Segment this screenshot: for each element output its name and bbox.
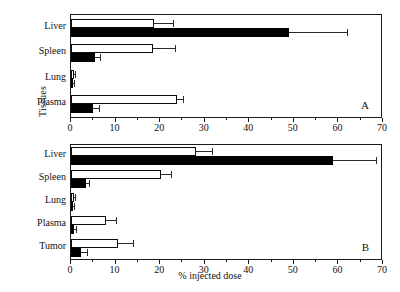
bar-a-plasma-filled [71, 104, 93, 113]
x-axis-title: % injected dose [120, 270, 300, 281]
bar-a-liver-filled [71, 28, 289, 37]
x-minor-tick-b-65 [360, 260, 361, 262]
errorbar-cap-a-plasma-open [183, 96, 184, 103]
errorbar-cap-a-liver-open [173, 20, 174, 27]
errorbar-cap-a-spleen-filled [100, 54, 101, 61]
bar-b-liver-open [71, 147, 196, 156]
x-minor-tick-a-45 [271, 118, 272, 120]
bar-a-spleen-filled [71, 53, 95, 62]
category-label-b-spleen: Spleen [4, 171, 66, 182]
errorbar-cap-a-lung-filled [74, 80, 75, 87]
panel-a-plot-area [71, 15, 381, 117]
bar-b-liver-filled [71, 156, 333, 165]
errorbar-cap-b-lung-filled [74, 203, 75, 210]
bar-b-tumor-open [71, 239, 118, 248]
x-minor-tick-a-35 [226, 118, 227, 120]
x-minor-tick-b-45 [271, 260, 272, 262]
errorbar-cap-b-spleen-open [171, 171, 172, 178]
panel-a-letter: A [361, 99, 369, 111]
errorbar-cap-a-lung-open [75, 71, 76, 78]
panel-b-plot-area [71, 145, 381, 259]
category-label-a-lung: Lung [4, 71, 66, 82]
errorbar-cap-b-liver-open [212, 148, 213, 155]
bar-b-plasma-open [71, 216, 106, 225]
x-tick-label-a-10: 10 [101, 122, 129, 133]
bar-b-spleen-open [71, 170, 161, 179]
errorbar-b-tumor-open [118, 243, 134, 244]
errorbar-a-liver-open [154, 23, 173, 24]
errorbar-cap-b-plasma-open [116, 217, 117, 224]
bar-a-spleen-open [71, 44, 153, 53]
category-label-b-liver: Liver [4, 148, 66, 159]
x-minor-tick-a-65 [360, 118, 361, 120]
x-tick-label-b-70: 70 [368, 264, 396, 275]
x-minor-tick-b-35 [226, 260, 227, 262]
x-tick-label-a-40: 40 [234, 122, 262, 133]
x-tick-label-a-20: 20 [145, 122, 173, 133]
x-minor-tick-a-5 [92, 118, 93, 120]
x-tick-label-b-0: 0 [56, 264, 84, 275]
errorbar-cap-a-spleen-open [175, 45, 176, 52]
x-tick-label-a-70: 70 [368, 122, 396, 133]
bar-b-tumor-filled [71, 248, 81, 257]
category-label-b-plasma: Plasma [4, 217, 66, 228]
x-tick-label-a-30: 30 [190, 122, 218, 133]
category-label-a-liver: Liver [4, 20, 66, 31]
x-minor-tick-b-5 [92, 260, 93, 262]
errorbar-a-liver-filled [289, 32, 347, 33]
panel-b: B [70, 144, 382, 260]
errorbar-cap-a-plasma-filled [99, 105, 100, 112]
x-minor-tick-a-15 [137, 118, 138, 120]
bar-b-spleen-filled [71, 179, 86, 188]
errorbar-cap-b-liver-filled [376, 157, 377, 164]
errorbar-cap-b-tumor-filled [87, 249, 88, 256]
figure-canvas: Tissues A B LiverSpleenLungPlasma LiverS… [0, 0, 400, 292]
errorbar-cap-b-tumor-open [133, 240, 134, 247]
x-tick-label-a-0: 0 [56, 122, 84, 133]
x-minor-tick-a-55 [315, 118, 316, 120]
panel-b-letter: B [362, 241, 369, 253]
errorbar-a-spleen-open [153, 48, 175, 49]
category-label-b-tumor: Tumor [4, 240, 66, 251]
errorbar-cap-b-plasma-filled [76, 226, 77, 233]
x-minor-tick-b-55 [315, 260, 316, 262]
x-tick-label-a-50: 50 [279, 122, 307, 133]
errorbar-cap-b-lung-open [75, 194, 76, 201]
x-minor-tick-b-25 [181, 260, 182, 262]
category-label-a-plasma: Plasma [4, 96, 66, 107]
x-minor-tick-b-15 [137, 260, 138, 262]
x-tick-label-b-60: 60 [323, 264, 351, 275]
errorbar-b-liver-open [196, 151, 212, 152]
bar-a-plasma-open [71, 95, 177, 104]
category-label-a-spleen: Spleen [4, 45, 66, 56]
errorbar-b-liver-filled [333, 160, 377, 161]
errorbar-b-spleen-open [161, 174, 172, 175]
bar-a-liver-open [71, 19, 154, 28]
errorbar-cap-b-spleen-filled [89, 180, 90, 187]
errorbar-b-plasma-open [106, 220, 116, 221]
x-minor-tick-a-25 [181, 118, 182, 120]
category-label-b-lung: Lung [4, 194, 66, 205]
errorbar-cap-a-liver-filled [347, 29, 348, 36]
panel-a: A [70, 14, 382, 118]
x-tick-label-a-60: 60 [323, 122, 351, 133]
